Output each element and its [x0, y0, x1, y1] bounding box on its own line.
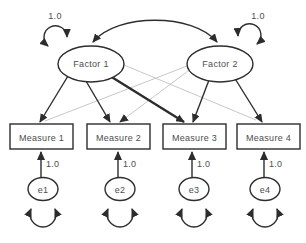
covariance-arrow-f1-f2: [93, 20, 217, 42]
error1-label: e1: [38, 185, 49, 195]
error3-label: e3: [189, 185, 200, 195]
sem-path-diagram: 1.0 1.0 Factor 1 Factor 2 Measure 1 Meas…: [0, 0, 306, 243]
loading-f1-m1: [40, 76, 68, 122]
diagram-canvas: 1.0 1.0 Factor 1 Factor 2 Measure 1 Meas…: [0, 0, 306, 243]
measure4-label: Measure 4: [246, 133, 291, 143]
factor1-variance-label: 1.0: [48, 11, 61, 21]
variance-loop-e1-icon: [30, 209, 56, 227]
e2-loading-label: 1.0: [123, 159, 136, 169]
e1-loading-label: 1.0: [46, 159, 59, 169]
measure3-label: Measure 3: [172, 133, 217, 143]
factor2-variance-label: 1.0: [251, 11, 264, 21]
loading-f1-m2: [86, 81, 110, 122]
variance-loop-factor2-icon: [238, 24, 261, 44]
measure1-label: Measure 1: [19, 133, 64, 143]
factor1-label: Factor 1: [73, 59, 108, 69]
e4-loading-label: 1.0: [269, 159, 282, 169]
factor2-label: Factor 2: [202, 59, 237, 69]
variance-loop-e4-icon: [252, 209, 278, 227]
error4-label: e4: [260, 185, 271, 195]
error2-label: e2: [115, 185, 126, 195]
variance-loop-e3-icon: [181, 209, 207, 227]
e3-loading-label: 1.0: [197, 159, 210, 169]
variance-loop-e2-icon: [107, 209, 133, 227]
loading-f2-m4: [234, 77, 262, 122]
loading-f2-m3: [193, 80, 209, 122]
variance-loop-factor1-icon: [44, 26, 67, 46]
measure2-label: Measure 2: [96, 133, 141, 143]
